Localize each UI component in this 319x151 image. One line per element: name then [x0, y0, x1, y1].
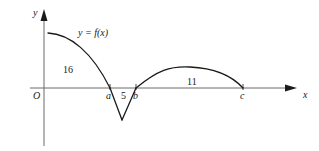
x-axis-arrowhead [285, 85, 297, 92]
graph-canvas [0, 0, 319, 151]
x-intercept-label-b: b [133, 91, 138, 101]
curve-segment-o-to-a [48, 33, 110, 88]
area-label-5: 5 [121, 91, 126, 101]
area-label-16: 16 [63, 65, 73, 75]
x-intercept-label-c: c [240, 91, 244, 101]
curve-label: y = f(x) [78, 28, 108, 38]
y-axis-arrowhead [41, 9, 48, 21]
area-label-11: 11 [187, 77, 197, 87]
origin-label: O [33, 91, 40, 101]
x-intercept-label-a: a [106, 91, 111, 101]
y-axis-label: y [33, 8, 37, 18]
function-graph-figure: y x O y = f(x) 16 5 11 a b c [0, 0, 319, 151]
x-axis-label: x [303, 90, 307, 100]
